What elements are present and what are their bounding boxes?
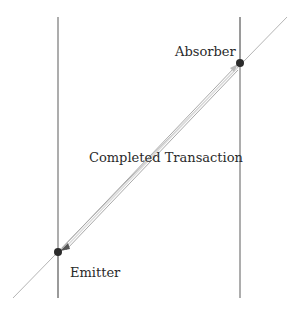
transaction-label: Completed Transaction xyxy=(89,151,243,164)
absorber-label: Absorber xyxy=(175,45,236,58)
diagram-canvas: Absorber Completed Transaction Emitter xyxy=(0,0,297,316)
emitter-label: Emitter xyxy=(70,266,120,279)
absorber-node xyxy=(236,59,244,67)
emitter-node xyxy=(54,248,62,256)
